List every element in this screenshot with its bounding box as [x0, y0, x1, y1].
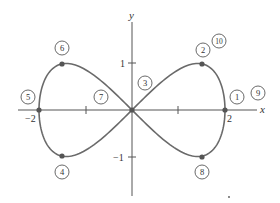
- circled-label-9: 9: [251, 86, 265, 100]
- svg-text:7: 7: [99, 92, 103, 102]
- figure-eight-diagram: y x −2 2 1 −1 1 2 3 4 5 6 7 8: [0, 0, 280, 203]
- stray-dot: [228, 196, 230, 198]
- circled-label-2: 2: [196, 43, 210, 57]
- x-axis-label: x: [259, 103, 265, 115]
- circled-label-3: 3: [138, 76, 152, 90]
- svg-text:10: 10: [215, 37, 223, 46]
- circled-label-7: 7: [94, 90, 108, 104]
- point-1: [222, 107, 227, 112]
- circled-label-10: 10: [212, 34, 226, 48]
- svg-text:1: 1: [235, 92, 239, 102]
- point-origin: [129, 107, 134, 112]
- svg-text:4: 4: [60, 167, 65, 177]
- circled-label-5: 5: [21, 90, 35, 104]
- circled-label-4: 4: [55, 165, 69, 179]
- y-axis-label: y: [128, 9, 134, 21]
- circled-label-8: 8: [195, 165, 209, 179]
- point-6: [59, 61, 64, 66]
- svg-text:8: 8: [200, 167, 204, 177]
- point-4: [59, 153, 64, 158]
- y-tick-label-1: 1: [120, 58, 125, 69]
- point-5: [36, 107, 41, 112]
- x-tick-label-neg2: −2: [25, 113, 36, 124]
- point-8: [199, 154, 204, 159]
- svg-text:9: 9: [256, 88, 260, 98]
- svg-text:2: 2: [201, 45, 205, 55]
- svg-text:5: 5: [26, 92, 30, 102]
- circled-label-6: 6: [55, 41, 69, 55]
- svg-text:3: 3: [143, 78, 147, 88]
- point-2: [199, 61, 204, 66]
- x-tick-label-2: 2: [227, 113, 232, 124]
- circled-label-1: 1: [230, 90, 244, 104]
- y-tick-label-neg1: −1: [113, 152, 124, 163]
- svg-text:6: 6: [60, 43, 64, 53]
